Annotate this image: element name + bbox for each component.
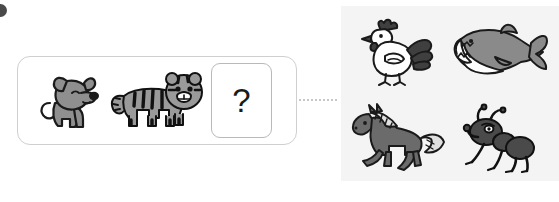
option-item-horse[interactable]: [347, 98, 451, 176]
answer-slot[interactable]: ?: [211, 63, 272, 138]
screenshot-canvas: ?: [0, 0, 559, 202]
tiger-icon: [107, 68, 205, 136]
analogy-question-panel: ?: [17, 56, 297, 145]
bullet-dot-icon: [0, 4, 7, 17]
option-item-shark[interactable]: [441, 16, 551, 88]
dog-icon: [36, 69, 104, 135]
horse-icon: [349, 100, 449, 174]
rooster-icon: [357, 16, 437, 88]
option-item-ant[interactable]: [453, 102, 541, 176]
option-item-rooster[interactable]: [355, 14, 439, 90]
question-item-tiger[interactable]: [104, 65, 208, 139]
question-item-dog[interactable]: [32, 65, 108, 139]
question-mark-label: ?: [232, 84, 250, 117]
dotted-connector: [299, 99, 339, 101]
ant-icon: [456, 104, 538, 174]
shark-icon: [443, 19, 549, 85]
answer-options-panel: [341, 6, 559, 181]
